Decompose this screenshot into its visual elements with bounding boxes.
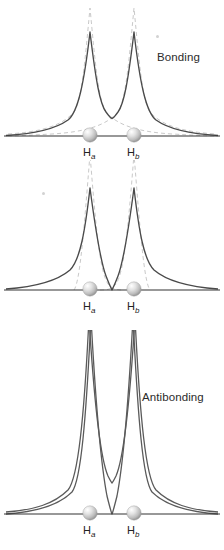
atom-subscript-ha-anti: a <box>91 306 95 315</box>
atom-element-ha-anti: H <box>83 300 91 312</box>
panel-bonding: Bonding Ha Hb <box>0 0 224 185</box>
curve-1s-orbital-b <box>8 8 216 136</box>
scan-speck-top <box>156 35 159 38</box>
nucleus-sphere-b <box>127 128 141 142</box>
atom-label-hb-overlay: Hb <box>127 525 139 539</box>
overlay-plot <box>0 330 224 550</box>
nucleus-sphere-a-overlay <box>83 506 97 520</box>
atom-subscript-hb-anti: b <box>135 306 139 315</box>
atom-subscript-hb-overlay: b <box>135 530 139 539</box>
atom-label-ha-antibonding: Ha <box>83 301 95 315</box>
curve-antibonding-combination <box>6 188 218 290</box>
curve-1s-orbital-a-anti <box>74 160 124 290</box>
atom-subscript-ha-overlay: a <box>91 530 95 539</box>
nucleus-sphere-a-anti <box>83 282 97 296</box>
atom-element-ha-overlay: H <box>83 524 91 536</box>
curve-overlay-bonding <box>6 330 218 512</box>
panel-title-bonding: Bonding <box>157 52 200 64</box>
curve-1s-orbital-b-anti <box>100 160 150 290</box>
atom-label-ha-overlay: Ha <box>83 525 95 539</box>
panel-overlay: Ha Hb <box>0 330 224 550</box>
atom-element-ha: H <box>83 146 91 158</box>
nucleus-sphere-b-overlay <box>127 506 141 520</box>
panel-antibonding: Antibonding Ha Hb <box>0 160 224 335</box>
atom-element-hb: H <box>127 146 135 158</box>
curve-1s-orbital-a <box>8 8 216 136</box>
atom-element-hb-anti: H <box>127 300 135 312</box>
atom-element-hb-overlay: H <box>127 524 135 536</box>
scan-speck-mid <box>42 192 45 195</box>
nucleus-sphere-a <box>83 128 97 142</box>
nucleus-sphere-b-anti <box>127 282 141 296</box>
curve-bonding-combination <box>6 32 218 136</box>
molecular-orbital-figure: Bonding Ha Hb <box>0 0 224 550</box>
curve-overlay-antibonding <box>6 330 218 514</box>
atom-label-hb-antibonding: Hb <box>127 301 139 315</box>
bonding-plot <box>0 0 224 185</box>
antibonding-plot <box>0 160 224 335</box>
